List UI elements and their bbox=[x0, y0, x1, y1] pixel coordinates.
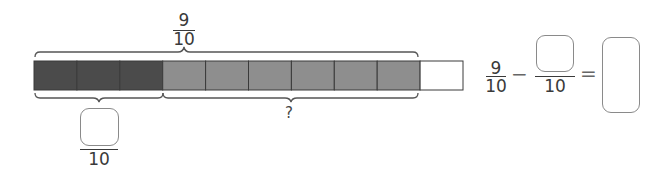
bottom-left-brace bbox=[35, 93, 163, 102]
bar-cell-empty bbox=[420, 61, 463, 90]
equals-sign: = bbox=[580, 63, 597, 83]
answer-input[interactable] bbox=[602, 37, 640, 113]
equation-second-denominator: 10 bbox=[535, 78, 575, 95]
equation-second-numerator-input[interactable] bbox=[536, 35, 574, 72]
bottom-left-denominator: 10 bbox=[80, 151, 118, 168]
top-label-denominator: 10 bbox=[170, 31, 198, 48]
top-label-numerator: 9 bbox=[170, 12, 198, 29]
bar-cell-dark bbox=[77, 61, 120, 90]
bottom-right-brace bbox=[163, 93, 418, 102]
equation-first-numerator: 9 bbox=[484, 60, 508, 77]
bar-cell-light bbox=[291, 61, 334, 90]
bottom-left-numerator-input[interactable] bbox=[80, 108, 119, 146]
bar-cell-dark bbox=[34, 61, 77, 90]
unknown-part-label: ? bbox=[285, 104, 293, 122]
bar-cell-light bbox=[206, 61, 249, 90]
bar-cells bbox=[34, 61, 463, 90]
top-brace bbox=[35, 47, 418, 57]
bar-cell-light bbox=[334, 61, 377, 90]
bar-cell-light bbox=[163, 61, 206, 90]
minus-sign: − bbox=[511, 64, 528, 84]
bar-cell-light bbox=[377, 61, 420, 90]
equation-first-denominator: 10 bbox=[484, 78, 508, 95]
bar-cell-dark bbox=[120, 61, 163, 90]
bar-cell-light bbox=[249, 61, 292, 90]
